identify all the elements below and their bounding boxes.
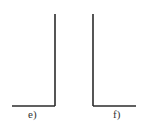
diagram-canvas: e) f): [0, 0, 144, 129]
figure-f-shape: [93, 14, 136, 106]
figure-e-shape: [12, 14, 55, 106]
figure-e-label: e): [28, 109, 37, 120]
l-shapes-drawing: [0, 0, 144, 129]
figure-f-label: f): [113, 109, 120, 120]
